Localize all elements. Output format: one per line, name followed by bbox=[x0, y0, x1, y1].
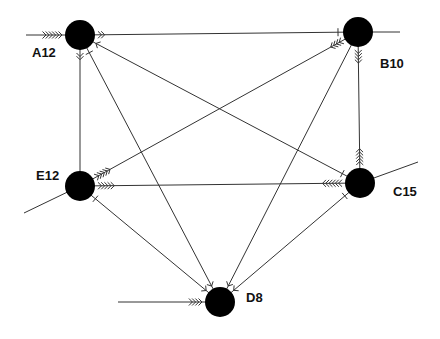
marks-layer bbox=[43, 28, 364, 305]
edge-b10-e12 bbox=[80, 32, 358, 186]
edge-a12-d8 bbox=[80, 35, 220, 302]
node-label-c15: C15 bbox=[393, 184, 417, 199]
node-a12[interactable] bbox=[65, 20, 95, 50]
chevron-b10-e12-at-e12-icon bbox=[94, 168, 110, 180]
chevron-e12-c15-at-c15-icon bbox=[323, 180, 343, 187]
node-label-a12: A12 bbox=[32, 45, 56, 60]
tick-e12-d8-at-e12-icon bbox=[93, 196, 98, 202]
edge-e12-c15 bbox=[80, 183, 360, 186]
node-c15[interactable] bbox=[345, 168, 375, 198]
tick-a12-d8-at-a12-icon bbox=[86, 51, 93, 55]
node-label-d8: D8 bbox=[246, 290, 263, 305]
edge-a12-b10 bbox=[80, 32, 358, 35]
node-label-b10: B10 bbox=[380, 56, 404, 71]
node-label-e12: E12 bbox=[36, 168, 59, 183]
tick-a12-c15-at-c15-icon bbox=[340, 170, 344, 177]
node-b10[interactable] bbox=[343, 17, 373, 47]
edge-c15-d8 bbox=[220, 183, 360, 302]
chevron-stub-a12-icon bbox=[43, 32, 63, 39]
node-e12[interactable] bbox=[65, 171, 95, 201]
edges-layer bbox=[24, 32, 418, 302]
edge-b10-d8 bbox=[220, 32, 358, 302]
nodes-layer bbox=[65, 17, 375, 317]
edge-e12-d8 bbox=[80, 186, 220, 302]
network-diagram: A12 B10 E12 C15 D8 bbox=[0, 0, 440, 339]
node-d8[interactable] bbox=[205, 287, 235, 317]
